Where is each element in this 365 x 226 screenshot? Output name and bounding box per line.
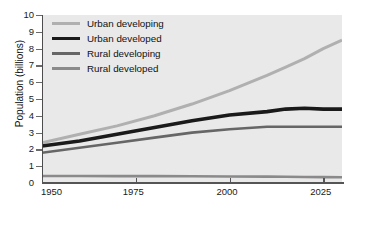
legend-item-rural-developing: Rural developing (52, 46, 222, 61)
y-tick-label: 0 (6, 178, 34, 188)
x-tick-mark (230, 178, 231, 184)
population-line-chart: 109876543210 1950197520002025 Population… (0, 0, 365, 226)
legend-swatch-icon (52, 52, 80, 55)
legend-swatch-icon (52, 22, 80, 25)
y-tick-mark (36, 82, 42, 83)
series-line (42, 176, 342, 177)
x-tick-mark (136, 178, 137, 184)
legend-label: Rural developing (87, 49, 161, 59)
y-tick-mark (36, 116, 42, 117)
legend-label: Urban developed (87, 34, 162, 44)
x-tick-label: 2000 (217, 186, 238, 197)
legend-swatch-icon (52, 37, 80, 41)
legend-item-urban-developing: Urban developing (52, 16, 222, 31)
y-tick-mark (36, 49, 42, 50)
y-tick-mark (36, 15, 42, 16)
x-axis-line (42, 182, 344, 184)
x-tick-label: 2025 (310, 186, 331, 197)
x-tick-label: 1950 (41, 186, 62, 197)
y-tick-mark (36, 65, 42, 66)
legend-label: Urban developing (87, 19, 164, 29)
legend-item-rural-developed: Rural developed (52, 61, 222, 76)
legend: Urban developing Urban developed Rural d… (52, 16, 222, 76)
legend-item-urban-developed: Urban developed (52, 31, 222, 46)
x-tick-mark (323, 178, 324, 184)
legend-swatch-icon (52, 67, 80, 70)
y-tick-mark (36, 32, 42, 33)
y-tick-mark (36, 166, 42, 167)
y-axis-title: Population (billions) (14, 9, 25, 159)
y-tick-label: 1 (6, 161, 34, 171)
y-axis-line (42, 15, 43, 183)
x-tick-label: 1975 (123, 186, 144, 197)
y-tick-mark (36, 149, 42, 150)
y-tick-mark (36, 133, 42, 134)
y-tick-mark (36, 99, 42, 100)
x-tick-mark (42, 178, 43, 184)
legend-label: Rural developed (87, 64, 158, 74)
